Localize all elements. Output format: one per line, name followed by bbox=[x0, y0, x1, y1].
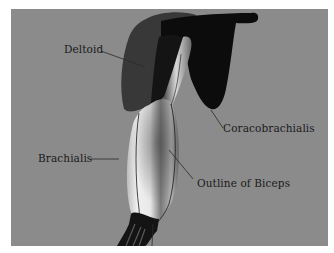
label-brachialis: Brachialis bbox=[38, 152, 92, 164]
diagram-panel: Deltoid Coracobrachialis Brachialis Outl… bbox=[11, 9, 328, 246]
label-coracobrachialis: Coracobrachialis bbox=[223, 122, 315, 134]
biceps-shading bbox=[127, 99, 179, 224]
label-deltoid: Deltoid bbox=[64, 43, 103, 55]
label-biceps-outline: Outline of Biceps bbox=[197, 177, 290, 189]
coracobrachialis-leader-line bbox=[211, 110, 223, 128]
